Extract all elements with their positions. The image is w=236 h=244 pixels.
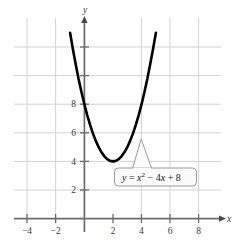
xtick-label-8: 8 [196,226,201,236]
ytick-label-6: 6 [71,128,76,138]
callout-equation: y = x2 − 4x + 8 [121,171,181,183]
y-axis-arrow [81,16,87,23]
eq-equals: = [126,172,137,183]
xtick-label-neg2: −2 [51,226,61,236]
x-axis-arrow [219,215,226,221]
graph-canvas: −4 −2 2 4 6 8 8 6 4 2 x y y = x2 − 4x + … [0,0,236,244]
eq-plus: + [165,172,176,183]
axes [14,16,226,232]
ytick-label-4: 4 [71,157,76,167]
parabola-figure: −4 −2 2 4 6 8 8 6 4 2 x y y = x2 − 4x + … [0,0,236,244]
xtick-label-2: 2 [111,226,116,236]
callout-leader [132,139,152,170]
y-tick-labels: 8 6 4 2 [71,99,76,195]
grid [14,18,221,219]
xtick-label-6: 6 [168,226,173,236]
ytick-label-8: 8 [71,99,76,109]
eq-constant-8: 8 [176,172,181,183]
ytick-label-2: 2 [71,185,76,195]
xtick-label-4: 4 [139,226,144,236]
x-axis-label: x [226,214,232,224]
xtick-label-neg4: −4 [22,226,32,236]
y-axis-label: y [82,5,88,15]
parabola-curve [70,33,156,162]
x-tick-labels: −4 −2 2 4 6 8 [22,226,201,236]
eq-minus: − [145,172,156,183]
